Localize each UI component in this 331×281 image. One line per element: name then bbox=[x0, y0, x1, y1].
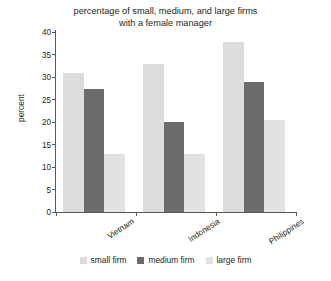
y-axis-label: percent bbox=[16, 94, 26, 122]
bar bbox=[244, 82, 265, 212]
x-axis-tick-mark bbox=[296, 212, 297, 216]
legend-label: small firm bbox=[91, 255, 127, 265]
legend-swatch bbox=[206, 257, 213, 264]
bar bbox=[184, 154, 205, 213]
legend-item: medium firm bbox=[137, 255, 194, 265]
y-axis-tick-mark bbox=[52, 144, 56, 145]
bar bbox=[264, 120, 285, 212]
bar bbox=[164, 122, 185, 212]
bar bbox=[143, 64, 164, 212]
x-axis-category-label: Indonesia bbox=[187, 217, 222, 244]
bar bbox=[63, 73, 84, 212]
bar bbox=[104, 154, 125, 212]
bar bbox=[223, 42, 244, 212]
bar bbox=[84, 89, 105, 212]
chart-title-line-1: percentage of small, medium, and large f… bbox=[0, 6, 331, 18]
y-axis-tick-mark bbox=[52, 32, 56, 33]
legend-swatch bbox=[80, 257, 87, 264]
legend-item: small firm bbox=[80, 255, 127, 265]
y-axis-tick-mark bbox=[52, 167, 56, 168]
y-axis-tick-mark bbox=[52, 189, 56, 190]
y-axis-tick-mark bbox=[52, 77, 56, 78]
x-axis-line bbox=[55, 212, 297, 213]
bar-chart: percentage of small, medium, and large f… bbox=[0, 0, 331, 281]
legend-item: large firm bbox=[206, 255, 252, 265]
x-axis-tick-mark bbox=[136, 212, 137, 216]
legend-label: medium firm bbox=[148, 255, 194, 265]
legend-swatch bbox=[137, 257, 144, 264]
x-axis-category-label: Philippines bbox=[268, 217, 306, 246]
y-axis-tick-mark bbox=[52, 99, 56, 100]
plot-area: 0510152025303540 bbox=[56, 32, 296, 212]
chart-legend: small firmmedium firmlarge firm bbox=[0, 255, 331, 265]
legend-label: large firm bbox=[217, 255, 252, 265]
y-axis-tick-mark bbox=[52, 122, 56, 123]
chart-title: percentage of small, medium, and large f… bbox=[0, 6, 331, 29]
x-axis-tick-mark bbox=[56, 212, 57, 216]
x-axis-category-label: Vietnam bbox=[106, 217, 136, 241]
y-axis-tick-mark bbox=[52, 54, 56, 55]
